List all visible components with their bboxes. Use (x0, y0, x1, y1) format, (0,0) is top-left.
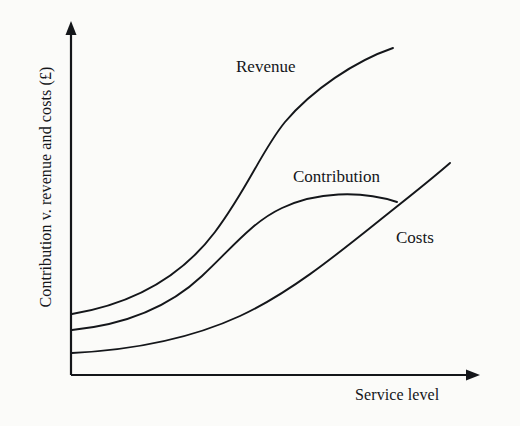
curve-costs (72, 163, 450, 353)
curve-contribution (72, 194, 397, 330)
chart-figure: Contribution v. revenue and costs (£) Se… (0, 0, 520, 426)
curve-label-revenue: Revenue (236, 57, 295, 77)
curve-label-contribution: Contribution (293, 167, 380, 187)
x-axis-arrow-icon (466, 370, 480, 381)
curve-label-costs: Costs (396, 228, 434, 248)
y-axis-arrow-icon (66, 21, 77, 35)
y-axis-title: Contribution v. revenue and costs (£) (37, 37, 55, 337)
x-axis-title: Service level (355, 386, 439, 404)
